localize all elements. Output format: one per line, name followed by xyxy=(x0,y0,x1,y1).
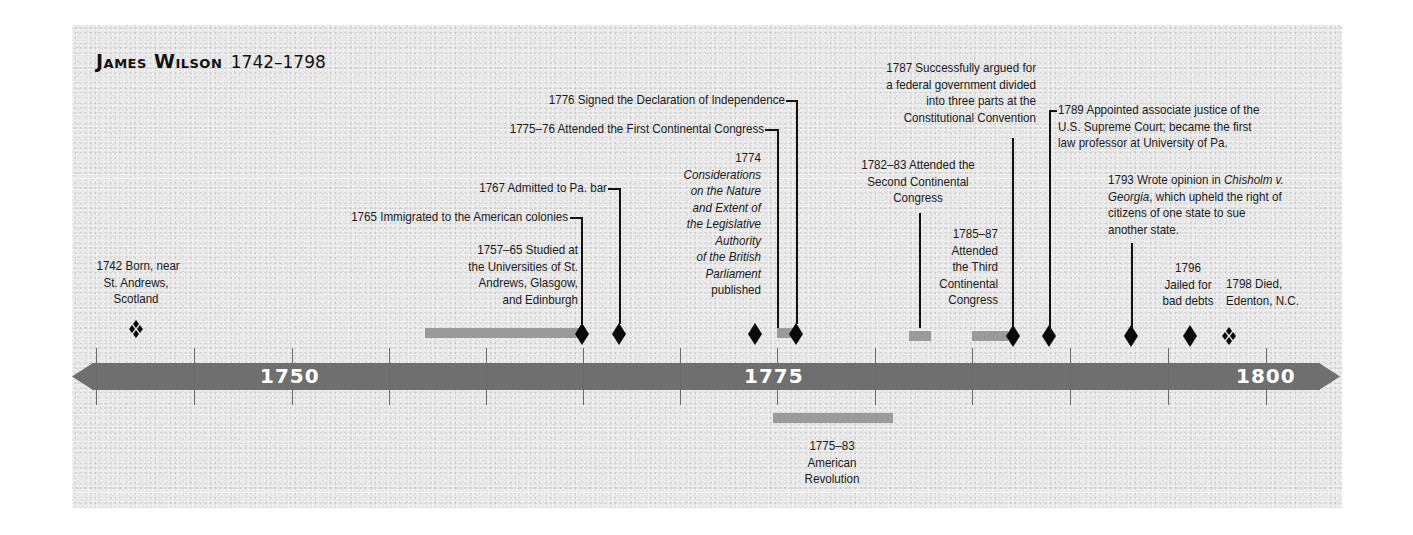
event-studied-line: the Universities of St. xyxy=(442,259,578,276)
chisholm-diamond-icon xyxy=(1124,325,1138,347)
chisholm-text: , which upheld the right of xyxy=(1149,189,1281,204)
event-convention-line: into three parts at the xyxy=(867,93,1036,110)
event-declaration-label: 1776 Signed the Declaration of Independe… xyxy=(471,92,785,109)
revolution-span-bar xyxy=(773,413,893,423)
event-supreme-court-line: U.S. Supreme Court; became the first xyxy=(1058,119,1282,136)
event-born-line: Scotland xyxy=(96,291,175,308)
born-quad-diamond-icon xyxy=(129,320,143,338)
event-third-congress-line: the Third xyxy=(931,259,998,276)
event-chisholm-label: 1793 Wrote opinion in Chisholm v. Georgi… xyxy=(1108,172,1314,238)
timeline-title: James Wilson 1742–1798 xyxy=(96,50,326,72)
event-born-line: St. Andrews, xyxy=(96,275,175,292)
connector-line xyxy=(919,213,921,328)
axis-tick xyxy=(486,348,487,405)
axis-tick xyxy=(972,348,973,405)
book-title-line: the Legislative xyxy=(687,216,761,231)
event-first-congress-label: 1775–76 Attended the First Continental C… xyxy=(451,121,764,138)
connector-line xyxy=(777,129,779,329)
supreme-court-diamond-icon xyxy=(1042,325,1056,347)
event-pa-bar-label: 1767 Admitted to Pa. bar xyxy=(446,180,607,197)
connector-line xyxy=(796,100,798,324)
book-title-line: on the Nature xyxy=(691,183,761,198)
axis-tick xyxy=(583,348,584,405)
case-name: Chisholm v. xyxy=(1224,172,1284,187)
title-name: James Wilson xyxy=(96,50,222,72)
axis-label-1800: 1800 xyxy=(1236,364,1296,388)
event-second-congress-label: 1782–83 Attended the Second Continental … xyxy=(853,157,984,207)
immigrated-diamond-icon xyxy=(575,323,589,345)
book-title-line: of the British xyxy=(696,249,761,264)
chisholm-text: 1793 Wrote opinion in xyxy=(1108,172,1224,187)
event-born-label: 1742 Born, near St. Andrews, Scotland xyxy=(96,258,175,308)
event-studied-line: 1757–65 Studied at xyxy=(442,242,578,259)
jailed-diamond-icon xyxy=(1183,325,1197,347)
event-revolution-line: American xyxy=(789,455,875,472)
event-died-label: 1798 Died, Edenton, N.C. xyxy=(1226,276,1321,309)
event-died-line: Edenton, N.C. xyxy=(1226,293,1321,310)
axis-label-1750: 1750 xyxy=(260,364,320,388)
event-supreme-court-line: law professor at University of Pa. xyxy=(1058,135,1282,152)
connector-line xyxy=(619,188,621,324)
event-jailed-line: 1796 xyxy=(1155,260,1220,277)
event-revolution-line: Revolution xyxy=(789,471,875,488)
connector-line xyxy=(581,217,583,324)
event-supreme-court-label: 1789 Appointed associate justice of the … xyxy=(1058,102,1282,152)
event-supreme-court-line: 1789 Appointed associate justice of the xyxy=(1058,102,1282,119)
pa-bar-diamond-icon xyxy=(612,323,626,345)
axis-tick xyxy=(194,348,195,405)
event-third-congress-line: Congress xyxy=(931,292,998,309)
event-died-line: 1798 Died, xyxy=(1226,276,1321,293)
connector-line xyxy=(1049,110,1057,112)
event-convention-line: Constitutional Convention xyxy=(867,110,1036,127)
axis-tick xyxy=(1168,348,1169,405)
second-congress-span-bar xyxy=(909,331,931,341)
studied-span-bar xyxy=(425,328,580,338)
connector-line xyxy=(1049,110,1051,328)
book-title-line: and Extent of xyxy=(693,200,761,215)
event-revolution-line: 1775–83 xyxy=(789,438,875,455)
chisholm-text: another state. xyxy=(1108,222,1314,239)
event-third-congress-line: 1785–87 xyxy=(931,226,998,243)
event-studied-line: Andrews, Glasgow, xyxy=(442,275,578,292)
declaration-diamond-icon xyxy=(789,323,803,345)
event-second-congress-line: 1782–83 Attended the xyxy=(853,157,984,174)
book-title-line: Considerations xyxy=(684,167,761,182)
title-years: 1742–1798 xyxy=(231,52,326,72)
event-considerations-tail: published xyxy=(640,282,761,299)
scan-artifact-line xyxy=(72,492,1342,493)
event-jailed-line: Jailed for xyxy=(1155,277,1220,294)
axis-tick xyxy=(680,348,681,405)
died-quad-diamond-icon xyxy=(1222,327,1236,345)
event-jailed-line: bad debts xyxy=(1155,293,1220,310)
axis-tick xyxy=(875,348,876,405)
event-born-line: 1742 Born, near xyxy=(96,258,175,275)
event-jailed-label: 1796 Jailed for bad debts xyxy=(1155,260,1220,310)
event-third-congress-line: Attended xyxy=(931,243,998,260)
axis-tick xyxy=(96,348,97,405)
event-considerations-year: 1774 xyxy=(640,150,761,167)
book-title-line: Parliament xyxy=(706,266,761,281)
book-title-line: Authority xyxy=(715,233,761,248)
connector-line xyxy=(1131,243,1133,328)
event-immigrated-label: 1765 Immigrated to the American colonies xyxy=(286,209,568,226)
axis-tick xyxy=(389,348,390,405)
convention-diamond-icon xyxy=(1006,325,1020,347)
event-second-congress-line: Congress xyxy=(853,190,984,207)
axis-label-1775: 1775 xyxy=(744,364,804,388)
event-convention-line: a federal government divided xyxy=(867,77,1036,94)
event-third-congress-line: Continental xyxy=(931,276,998,293)
axis-tick xyxy=(1070,348,1071,405)
event-convention-label: 1787 Successfully argued for a federal g… xyxy=(867,60,1036,126)
event-second-congress-line: Second Continental xyxy=(853,174,984,191)
event-third-congress-label: 1785–87 Attended the Third Continental C… xyxy=(931,226,998,309)
considerations-diamond-icon xyxy=(748,323,762,345)
chisholm-text: citizens of one state to sue xyxy=(1108,205,1314,222)
event-studied-line: and Edinburgh xyxy=(442,292,578,309)
event-considerations-label: 1774 Considerations on the Nature and Ex… xyxy=(640,150,761,299)
third-congress-span-bar xyxy=(972,331,1008,341)
connector-line xyxy=(1012,138,1014,328)
event-convention-line: 1787 Successfully argued for xyxy=(867,60,1036,77)
event-studied-label: 1757–65 Studied at the Universities of S… xyxy=(442,242,578,308)
event-revolution-label: 1775–83 American Revolution xyxy=(789,438,875,488)
case-name: Georgia xyxy=(1108,189,1149,204)
